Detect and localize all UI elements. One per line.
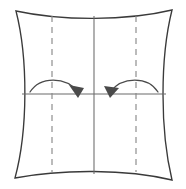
fold-diagram-container: [0, 0, 186, 189]
fold-diagram-canvas: [0, 0, 186, 189]
